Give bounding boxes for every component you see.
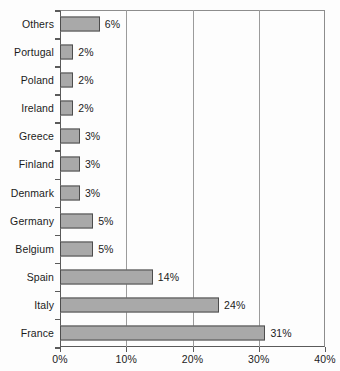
- category-label: Ireland: [0, 102, 54, 114]
- bar: [60, 129, 80, 144]
- bar: [60, 101, 73, 116]
- bar: [60, 213, 93, 228]
- category-label: Italy: [0, 299, 54, 311]
- value-tick: [325, 347, 326, 352]
- category-label: Greece: [0, 130, 54, 142]
- value-tick-label: 40%: [314, 353, 335, 365]
- value-tick: [60, 347, 61, 352]
- category-tick: [55, 10, 60, 12]
- category-label: Poland: [0, 74, 54, 86]
- category-tick: [55, 94, 60, 96]
- bar-value-label: 6%: [105, 18, 120, 30]
- value-tick-label: 30%: [248, 353, 269, 365]
- bar-value-label: 3%: [85, 187, 100, 199]
- category-tick: [55, 319, 60, 321]
- bar: [60, 157, 80, 172]
- value-tick: [193, 347, 194, 352]
- value-tick-label: 0%: [52, 353, 67, 365]
- category-tick: [55, 291, 60, 293]
- category-tick: [55, 207, 60, 209]
- category-tick: [55, 179, 60, 181]
- category-tick: [55, 263, 60, 265]
- bar-value-label: 14%: [158, 271, 179, 283]
- bar: [60, 241, 93, 256]
- bar-value-label: 24%: [224, 299, 245, 311]
- bar: [60, 73, 73, 88]
- category-label: France: [0, 327, 54, 339]
- category-tick: [55, 38, 60, 40]
- bar-value-label: 2%: [78, 74, 93, 86]
- category-tick: [55, 150, 60, 152]
- value-tick-label: 10%: [116, 353, 137, 365]
- bar: [60, 325, 265, 340]
- bar: [60, 297, 219, 312]
- category-label: Belgium: [0, 243, 54, 255]
- category-tick: [55, 66, 60, 68]
- bar-value-label: 31%: [270, 327, 291, 339]
- value-tick-label: 20%: [182, 353, 203, 365]
- category-label: Denmark: [0, 187, 54, 199]
- bar-value-label: 2%: [78, 102, 93, 114]
- bar-value-label: 3%: [85, 158, 100, 170]
- category-label: Germany: [0, 215, 54, 227]
- bar-value-label: 3%: [85, 130, 100, 142]
- category-label: Portugal: [0, 46, 54, 58]
- bar: [60, 17, 100, 32]
- category-label: Finland: [0, 158, 54, 170]
- bar-chart: 6%2%2%2%3%3%3%5%5%14%24%31% OthersPortug…: [0, 0, 340, 371]
- bar: [60, 45, 73, 60]
- bar: [60, 269, 153, 284]
- bar-value-label: 2%: [78, 46, 93, 58]
- category-label: Others: [0, 18, 54, 30]
- value-tick: [126, 347, 127, 352]
- category-label: Spain: [0, 271, 54, 283]
- bar: [60, 185, 80, 200]
- category-tick: [55, 122, 60, 124]
- bar-value-label: 5%: [98, 215, 113, 227]
- category-tick: [55, 235, 60, 237]
- bar-value-label: 5%: [98, 243, 113, 255]
- value-tick: [259, 347, 260, 352]
